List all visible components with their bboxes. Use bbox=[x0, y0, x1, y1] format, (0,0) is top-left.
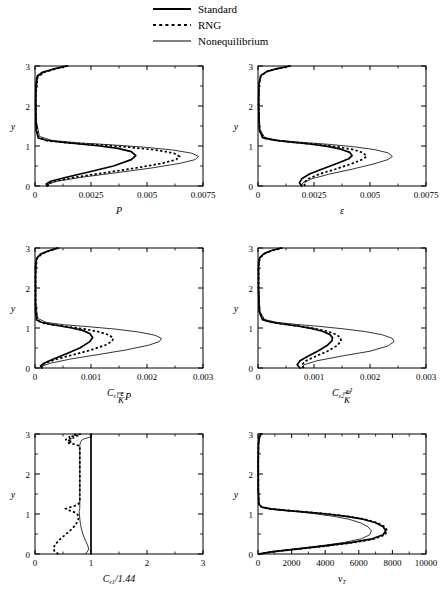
panel-ce2: 00.0010.0020.0030123yCε2ε²K bbox=[233, 244, 437, 406]
x-tick-label: 0.001 bbox=[304, 372, 324, 382]
y-tick-label: 2 bbox=[26, 284, 31, 294]
plot-box bbox=[258, 66, 426, 186]
y-tick-label: 0 bbox=[249, 182, 254, 192]
series-standard bbox=[36, 248, 93, 368]
x-tick-label: 0.001 bbox=[81, 372, 101, 382]
x-tick-label: 4000 bbox=[316, 558, 335, 568]
x-tick-label: 0 bbox=[33, 558, 38, 568]
x-tick-label: 0 bbox=[256, 190, 261, 200]
legend-svg: Standard RNG Nonequilibrium bbox=[0, 0, 443, 52]
x-tick-label: 0 bbox=[256, 558, 261, 568]
legend-label-rng: RNG bbox=[198, 19, 221, 31]
y-tick-label: 0 bbox=[26, 364, 31, 374]
y-axis-title: y bbox=[233, 121, 239, 132]
y-tick-label: 3 bbox=[249, 430, 254, 440]
x-tick-label: 0.002 bbox=[137, 372, 157, 382]
x-tick-label: 0.0025 bbox=[79, 190, 104, 200]
series-nonequilibrium bbox=[258, 434, 371, 554]
plot-panels: 00.00250.0050.00750123yP 00.00250.0050.0… bbox=[0, 52, 443, 604]
y-tick-label: 1 bbox=[249, 142, 254, 152]
x-tick-label: 0.005 bbox=[137, 190, 158, 200]
panel-nut: 02000400060008000100000123yνT bbox=[233, 430, 438, 586]
plot-box bbox=[258, 434, 426, 554]
legend-rng: RNG bbox=[153, 19, 221, 31]
y-tick-label: 3 bbox=[26, 430, 31, 440]
x-tick-label: 0 bbox=[33, 372, 38, 382]
series-nonequilibrium bbox=[36, 66, 199, 186]
y-tick-label: 1 bbox=[249, 324, 254, 334]
series-standard bbox=[36, 66, 136, 186]
x-axis-title: Cε1/1.44 bbox=[103, 573, 135, 585]
panel-p: 00.00250.0050.00750123yP bbox=[10, 62, 216, 217]
y-tick-label: 2 bbox=[249, 102, 254, 112]
y-axis-title: y bbox=[10, 489, 16, 500]
x-tick-label: 0.0075 bbox=[191, 190, 216, 200]
y-axis-title: y bbox=[10, 303, 16, 314]
x-tick-label: 0 bbox=[256, 372, 261, 382]
panel-ce1: 00.0010.0020.0030123yCε1εKP bbox=[10, 244, 214, 406]
figure-root: Standard RNG Nonequilibrium 00.00250.005… bbox=[0, 0, 443, 604]
y-tick-label: 2 bbox=[26, 102, 31, 112]
x-tick-label: 2000 bbox=[283, 558, 302, 568]
y-tick-label: 0 bbox=[26, 550, 31, 560]
legend-label-nonequilibrium: Nonequilibrium bbox=[198, 35, 269, 47]
x-axis-title: ε bbox=[340, 205, 344, 216]
y-tick-label: 3 bbox=[249, 244, 254, 254]
x-tick-label: 0.005 bbox=[360, 190, 381, 200]
series-rng bbox=[53, 434, 80, 554]
x-tick-label: 1 bbox=[89, 558, 94, 568]
series-nonequilibrium bbox=[79, 434, 91, 554]
y-tick-label: 3 bbox=[26, 244, 31, 254]
y-tick-label: 3 bbox=[26, 62, 31, 72]
y-tick-label: 0 bbox=[249, 550, 254, 560]
y-axis-title: y bbox=[10, 121, 16, 132]
y-tick-label: 2 bbox=[26, 470, 31, 480]
x-axis-title: P bbox=[115, 205, 122, 216]
x-tick-label: 3 bbox=[201, 558, 206, 568]
panel-eps: 00.00250.0050.00750123yε bbox=[233, 62, 439, 217]
x-tick-label: 2 bbox=[145, 558, 150, 568]
x-axis-title: νT bbox=[338, 573, 346, 585]
x-tick-label: 0.002 bbox=[360, 372, 380, 382]
series-standard bbox=[259, 66, 352, 186]
y-axis-title: y bbox=[233, 489, 239, 500]
y-tick-label: 2 bbox=[249, 284, 254, 294]
x-axis-title: Cε2ε²K bbox=[332, 386, 352, 405]
x-tick-label: 10000 bbox=[415, 558, 438, 568]
y-tick-label: 1 bbox=[26, 510, 31, 520]
plot-box bbox=[35, 248, 203, 368]
x-tick-label: 0.0025 bbox=[302, 190, 327, 200]
x-tick-label: 8000 bbox=[383, 558, 402, 568]
panel-ce1-norm: 01230123yCε1/1.44 bbox=[10, 430, 206, 586]
x-tick-label: 6000 bbox=[350, 558, 369, 568]
x-tick-label: 0 bbox=[33, 190, 38, 200]
series-rng bbox=[259, 248, 341, 368]
x-tick-label: 0.0075 bbox=[414, 190, 439, 200]
series-nonequilibrium bbox=[36, 248, 162, 368]
legend: Standard RNG Nonequilibrium bbox=[0, 0, 443, 52]
plot-box bbox=[35, 434, 203, 554]
y-tick-label: 1 bbox=[26, 324, 31, 334]
plot-box bbox=[35, 66, 203, 186]
legend-nonequilibrium: Nonequilibrium bbox=[153, 35, 269, 47]
legend-standard: Standard bbox=[153, 3, 238, 15]
series-standard bbox=[259, 248, 333, 368]
plot-box bbox=[258, 248, 426, 368]
legend-label-standard: Standard bbox=[198, 3, 238, 15]
series-nonequilibrium bbox=[259, 248, 395, 368]
y-tick-label: 1 bbox=[249, 510, 254, 520]
series-rng bbox=[259, 66, 367, 186]
x-tick-label: 0.003 bbox=[416, 372, 437, 382]
y-tick-label: 0 bbox=[26, 182, 31, 192]
y-axis-title: y bbox=[233, 303, 239, 314]
x-tick-label: 0.003 bbox=[193, 372, 214, 382]
x-axis-title: Cε1εKP bbox=[107, 387, 131, 405]
y-tick-label: 2 bbox=[249, 470, 254, 480]
y-tick-label: 3 bbox=[249, 62, 254, 72]
y-tick-label: 0 bbox=[249, 364, 254, 374]
y-tick-label: 1 bbox=[26, 142, 31, 152]
